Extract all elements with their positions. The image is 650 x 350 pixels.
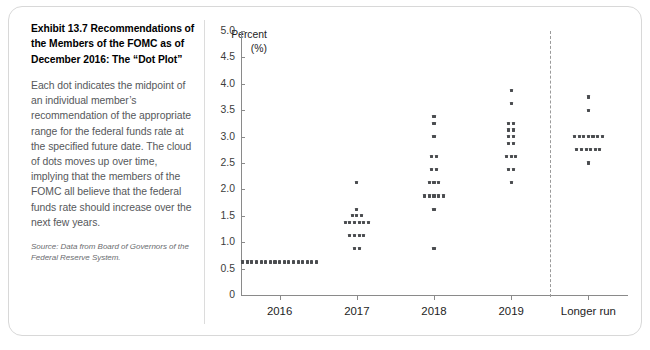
dot-marker [430, 168, 433, 171]
dot-marker [353, 247, 356, 250]
x-tick-label: Longer run [561, 305, 616, 317]
dot-marker [510, 155, 513, 158]
dot-marker [269, 260, 272, 263]
dot-marker [432, 194, 435, 197]
y-tick-label: 2.5 [205, 158, 235, 168]
dot-marker [442, 194, 445, 197]
dot-marker [512, 168, 515, 171]
dot-marker [260, 260, 263, 263]
x-tick-label: 2018 [421, 305, 446, 317]
x-tick-label: 2016 [267, 305, 292, 317]
dot-marker [432, 208, 435, 211]
dot-marker [507, 142, 510, 145]
dot-marker [507, 168, 510, 171]
dot-marker [507, 128, 510, 131]
y-tick-label: 2.0 [205, 184, 235, 194]
exhibit-text-column: Exhibit 13.7 Recommendations of the Memb… [31, 21, 197, 321]
dot-marker [348, 234, 351, 237]
dot-marker [297, 260, 300, 263]
y-tick-label: 3.5 [205, 105, 235, 115]
dot-marker [353, 234, 356, 237]
dot-marker [351, 214, 354, 217]
dot-marker [273, 260, 276, 263]
dot-marker [598, 148, 601, 151]
dot-marker [514, 155, 517, 158]
y-tick-label: 0.5 [205, 264, 235, 274]
dot-marker [367, 221, 370, 224]
x-tick-mark [280, 296, 281, 300]
dot-marker [292, 260, 295, 263]
dot-marker [432, 115, 435, 118]
dot-marker [585, 148, 588, 151]
dot-marker [594, 148, 597, 151]
dot-marker [512, 122, 515, 125]
y-tick-label: 4.5 [205, 52, 235, 62]
dot-marker [435, 168, 438, 171]
dot-marker [355, 214, 358, 217]
card-inner: Exhibit 13.7 Recommendations of the Memb… [9, 7, 641, 335]
dot-marker [360, 214, 363, 217]
dot-marker [246, 260, 249, 263]
dot-marker [301, 260, 304, 263]
dot-marker [510, 89, 513, 92]
dot-marker [575, 148, 578, 151]
x-tick-label: 2019 [499, 305, 524, 317]
dot-marker [362, 221, 365, 224]
dot-marker [580, 148, 583, 151]
dot-marker [362, 234, 365, 237]
x-tick-label: 2017 [344, 305, 369, 317]
x-tick-mark [434, 296, 435, 300]
dot-marker [601, 135, 604, 138]
y-tick-label: 5.0 [205, 26, 235, 36]
dot-marker [344, 221, 347, 224]
x-tick-mark [357, 296, 358, 300]
dot-marker [428, 194, 431, 197]
dot-marker [423, 194, 426, 197]
dot-marker [310, 260, 313, 263]
dot-marker [587, 95, 590, 98]
dot-marker [507, 122, 510, 125]
dot-marker [596, 135, 599, 138]
x-tick-mark [511, 296, 512, 300]
dot-marker [512, 135, 515, 138]
plot-area [241, 31, 627, 295]
dot-marker [355, 181, 358, 184]
dot-marker [428, 181, 431, 184]
dot-marker [315, 260, 318, 263]
dot-marker [283, 260, 286, 263]
exhibit-source-note: Source: Data from Board of Governors of … [31, 242, 197, 263]
dot-marker [435, 155, 438, 158]
dot-marker [510, 102, 513, 105]
x-tick-mark [588, 296, 589, 300]
dot-marker [512, 128, 515, 131]
dot-marker [250, 260, 253, 263]
y-tick-label: 0 [205, 290, 235, 300]
dot-marker [432, 135, 435, 138]
dot-marker [510, 181, 513, 184]
dot-marker [430, 155, 433, 158]
dot-marker [358, 221, 361, 224]
dot-marker [287, 260, 290, 263]
y-tick-label: 4.0 [205, 79, 235, 89]
dot-marker [241, 260, 244, 263]
dot-marker [437, 181, 440, 184]
dot-marker [353, 221, 356, 224]
dot-marker [587, 161, 590, 164]
dot-marker [582, 135, 585, 138]
dot-marker [355, 208, 358, 211]
longer-run-divider [550, 31, 551, 297]
exhibit-card: Exhibit 13.7 Recommendations of the Memb… [8, 6, 642, 336]
dot-marker [507, 135, 510, 138]
y-tick-label: 3.0 [205, 132, 235, 142]
y-tick-mark [241, 295, 245, 296]
dot-marker [505, 155, 508, 158]
exhibit-description: Each dot indicates the midpoint of an in… [31, 78, 197, 230]
dot-marker [437, 194, 440, 197]
y-tick-label: 1.5 [205, 211, 235, 221]
dot-marker [358, 247, 361, 250]
dot-marker [264, 260, 267, 263]
dot-marker [306, 260, 309, 263]
dot-marker [432, 247, 435, 250]
dot-marker [512, 142, 515, 145]
dot-marker [432, 122, 435, 125]
